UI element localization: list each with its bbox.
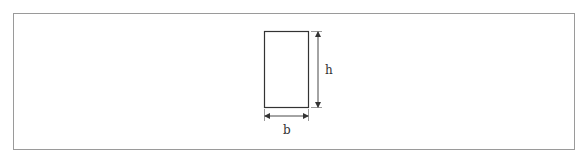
height-label: h <box>325 63 333 77</box>
cross-section-diagram: h b <box>0 0 588 160</box>
width-label: b <box>283 123 291 137</box>
width-dimension: b <box>265 109 309 137</box>
height-dimension: h <box>311 32 333 108</box>
rectangle-section <box>265 32 309 108</box>
